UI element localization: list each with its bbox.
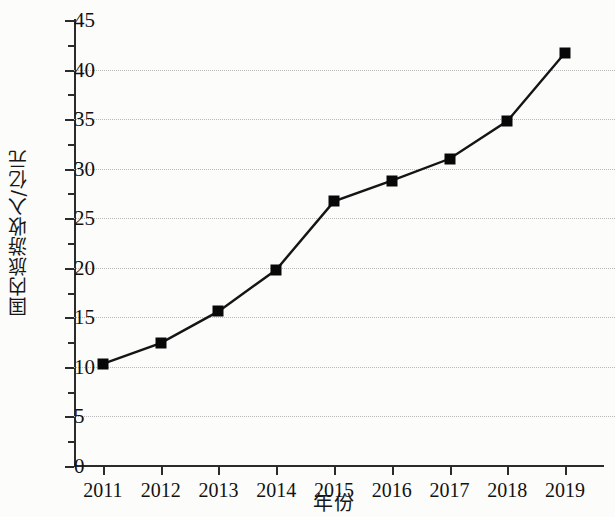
y-tick <box>65 20 74 22</box>
x-tick <box>218 466 220 475</box>
data-point <box>502 116 513 127</box>
y-tick <box>65 119 74 121</box>
chart-figure: 国内旅游收入/亿元 051015202530354045 20112012201… <box>0 0 615 517</box>
x-tick <box>507 466 509 475</box>
x-tick <box>161 466 163 475</box>
plot-area: 051015202530354045 201120122013201420152… <box>74 20 594 466</box>
y-axis-title: 国内旅游收入/亿元 <box>2 0 32 466</box>
y-tick <box>65 70 74 72</box>
x-tick <box>450 466 452 475</box>
data-point <box>271 264 282 275</box>
y-tick <box>65 416 74 418</box>
y-tick <box>65 218 74 220</box>
x-tick <box>103 466 105 475</box>
y-tick <box>65 317 74 319</box>
series-polyline <box>103 53 565 364</box>
y-tick <box>65 268 74 270</box>
data-point <box>386 175 397 186</box>
series-line <box>74 20 594 466</box>
data-point <box>97 358 108 369</box>
x-tick <box>392 466 394 475</box>
x-axis-title: 年份 <box>74 487 594 516</box>
data-point <box>155 338 166 349</box>
y-axis-title-text: 国内旅游收入/亿元 <box>4 149 31 316</box>
y-tick <box>65 466 74 468</box>
x-tick <box>334 466 336 475</box>
x-tick <box>276 466 278 475</box>
y-tick <box>65 169 74 171</box>
x-tick <box>565 466 567 475</box>
data-point <box>560 47 571 58</box>
y-tick <box>65 367 74 369</box>
data-point <box>329 196 340 207</box>
data-point <box>213 306 224 317</box>
data-point <box>444 153 455 164</box>
